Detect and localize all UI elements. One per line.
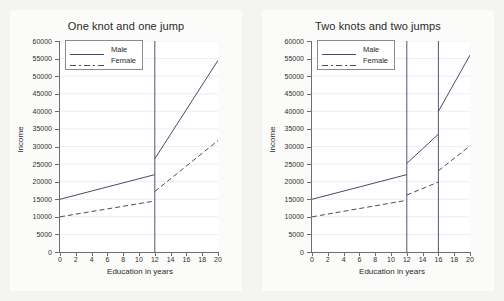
figure-root: One knot and one jump 600005500050000450… xyxy=(0,0,504,301)
y-tick-mark xyxy=(55,199,59,200)
y-tick-mark xyxy=(55,111,59,112)
legend-item-female: Female xyxy=(70,55,136,66)
y-tick-label: 15000 xyxy=(0,196,52,203)
y-tick-label: 35000 xyxy=(0,125,52,132)
y-tick-label: 40000 xyxy=(0,108,52,115)
gridlines xyxy=(312,41,470,234)
y-tick-mark xyxy=(307,76,311,77)
y-tick-mark xyxy=(307,164,311,165)
x-tick-label: 20 xyxy=(460,256,480,264)
chart-title: One knot and one jump xyxy=(0,20,252,32)
y-tick-mark xyxy=(55,182,59,183)
y-tick-mark xyxy=(307,199,311,200)
y-tick-mark xyxy=(55,94,59,95)
plot-svg-right xyxy=(312,41,470,252)
y-axis-line xyxy=(59,41,60,253)
y-tick-label: 50000 xyxy=(252,73,304,80)
y-tick-label: 55000 xyxy=(252,55,304,62)
legend-swatch-solid xyxy=(70,45,104,54)
y-axis-line xyxy=(311,41,312,253)
y-tick-label: 20000 xyxy=(0,178,52,185)
y-tick-label: 5000 xyxy=(252,231,304,238)
legend-item-male: Male xyxy=(70,44,136,55)
y-tick-mark xyxy=(55,217,59,218)
y-tick-label: 0 xyxy=(0,249,52,256)
legend-swatch-dashed xyxy=(322,56,356,65)
legend-item-female: Female xyxy=(322,55,388,66)
y-tick-label: 30000 xyxy=(252,143,304,150)
legend-item-male: Male xyxy=(322,44,388,55)
x-tick-label: 20 xyxy=(208,256,228,264)
y-tick-label: 25000 xyxy=(252,161,304,168)
y-tick-label: 10000 xyxy=(0,213,52,220)
y-tick-mark xyxy=(55,147,59,148)
y-tick-label: 60000 xyxy=(252,38,304,45)
y-tick-label: 40000 xyxy=(252,108,304,115)
legend-label-female: Female xyxy=(363,56,388,65)
y-tick-mark xyxy=(55,129,59,130)
y-tick-label: 5000 xyxy=(0,231,52,238)
legend-label-male: Male xyxy=(111,45,127,54)
x-axis-title: Education in years xyxy=(292,267,492,276)
chart-title: Two knots and two jumps xyxy=(252,20,504,32)
chart-panel-two-knots: Two knots and two jumps 6000055000500004… xyxy=(252,0,504,301)
y-tick-label: 60000 xyxy=(0,38,52,45)
y-tick-mark xyxy=(55,234,59,235)
chart-panel-one-knot: One knot and one jump 600005500050000450… xyxy=(0,0,252,301)
y-axis-title: Income xyxy=(16,110,25,170)
legend-swatch-solid xyxy=(322,45,356,54)
legend-swatch-dashed xyxy=(70,56,104,65)
y-tick-mark xyxy=(307,94,311,95)
y-tick-label: 15000 xyxy=(252,196,304,203)
y-tick-label: 50000 xyxy=(0,73,52,80)
y-tick-mark xyxy=(307,111,311,112)
y-axis-title: Income xyxy=(268,110,277,170)
y-tick-label: 30000 xyxy=(0,143,52,150)
y-tick-mark xyxy=(307,234,311,235)
y-tick-mark xyxy=(307,129,311,130)
y-tick-mark xyxy=(55,164,59,165)
y-tick-label: 55000 xyxy=(0,55,52,62)
series-line-male xyxy=(60,60,218,199)
y-tick-mark xyxy=(307,41,311,42)
y-tick-label: 10000 xyxy=(252,213,304,220)
x-axis-title: Education in years xyxy=(40,267,240,276)
legend-label-male: Male xyxy=(363,45,379,54)
legend-box: Male Female xyxy=(65,40,143,70)
y-tick-label: 45000 xyxy=(252,90,304,97)
y-tick-mark xyxy=(55,76,59,77)
y-tick-mark xyxy=(307,59,311,60)
plot-svg-left xyxy=(60,41,218,252)
y-tick-mark xyxy=(307,182,311,183)
y-tick-mark xyxy=(307,147,311,148)
series-line-male xyxy=(312,55,470,199)
y-tick-label: 45000 xyxy=(0,90,52,97)
y-tick-label: 35000 xyxy=(252,125,304,132)
legend-box: Male Female xyxy=(317,40,395,70)
plot-area-left xyxy=(60,41,218,252)
y-tick-mark xyxy=(307,252,311,253)
y-tick-mark xyxy=(307,217,311,218)
gridlines xyxy=(60,41,218,234)
legend-label-female: Female xyxy=(111,56,136,65)
y-tick-label: 0 xyxy=(252,249,304,256)
y-tick-mark xyxy=(55,41,59,42)
y-tick-label: 20000 xyxy=(252,178,304,185)
y-tick-mark xyxy=(55,59,59,60)
plot-area-right xyxy=(312,41,470,252)
y-tick-mark xyxy=(55,252,59,253)
y-tick-label: 25000 xyxy=(0,161,52,168)
